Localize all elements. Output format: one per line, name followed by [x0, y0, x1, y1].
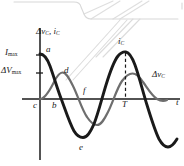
point-label-c: c [33, 101, 37, 110]
vmax-label: ΔVmax [1, 66, 21, 76]
vmax-symbol: ΔV [1, 65, 12, 75]
point-label-f: f [83, 86, 86, 95]
x-axis-label-text: t [176, 97, 179, 107]
y-axis-label: ΔvC, iC [36, 27, 60, 37]
waveform-figure [0, 0, 184, 166]
top-bracket-artifact [14, 1, 182, 19]
voltage-curve-symbol: Δv [152, 69, 161, 79]
x-axis-label: t [176, 98, 179, 107]
y-axis-label-voltage: Δv [36, 26, 45, 36]
point-label-period: T [122, 100, 127, 109]
point-label-b: b [52, 101, 57, 110]
point-label-a: a [46, 45, 51, 54]
point-label-e: e [79, 143, 83, 152]
point-label-d: d [64, 66, 69, 75]
y-axis-label-current-sub: C [56, 30, 60, 36]
current-curve-subscript: C [121, 40, 125, 46]
current-curve-label: iC [118, 37, 124, 47]
voltage-curve-label: ΔvC [152, 70, 165, 80]
imax-subscript: max [8, 51, 18, 57]
diagonal-shade-lines [66, 19, 140, 80]
voltage-curve-subscript: C [161, 73, 165, 79]
vmax-subscript: max [12, 69, 22, 75]
imax-label: Imax [5, 48, 18, 58]
